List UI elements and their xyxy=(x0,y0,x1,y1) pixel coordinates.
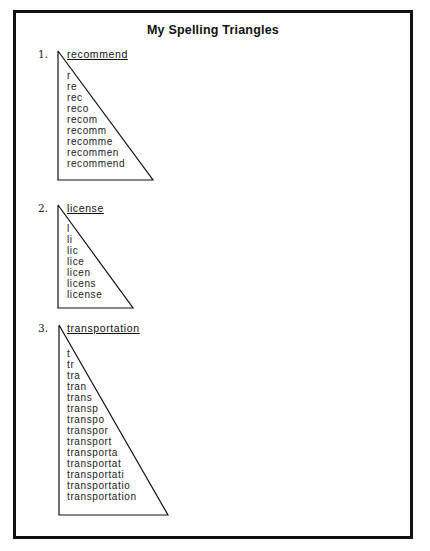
letter-row: transportati xyxy=(67,469,137,480)
letter-row: rec xyxy=(67,92,125,103)
letter-row: r xyxy=(67,70,125,81)
letter-row: licens xyxy=(67,278,102,289)
letter-row: re xyxy=(67,81,125,92)
letter-row: tr xyxy=(67,359,137,370)
spelling-word: transportation xyxy=(67,322,140,334)
letter-row: reco xyxy=(67,103,125,114)
letter-row: tran xyxy=(67,381,137,392)
letter-row: transport xyxy=(67,436,137,447)
letter-row: recom xyxy=(67,114,125,125)
letter-row: recommen xyxy=(67,147,125,158)
letter-row: lic xyxy=(67,245,102,256)
letter-row: recomm xyxy=(67,125,125,136)
letter-row: transportation xyxy=(67,491,137,502)
letter-row: license xyxy=(67,289,102,300)
letter-row: lice xyxy=(67,256,102,267)
spelling-word: recommend xyxy=(67,48,128,60)
letter-row: transporta xyxy=(67,447,137,458)
letter-row: licen xyxy=(67,267,102,278)
letter-rows: l li lic lice licen licens license xyxy=(67,223,102,300)
letter-row: trans xyxy=(67,392,137,403)
letter-row: transpor xyxy=(67,425,137,436)
letter-row: t xyxy=(67,348,137,359)
letter-row: transp xyxy=(67,403,137,414)
letter-row: recomme xyxy=(67,136,125,147)
letter-row: transpo xyxy=(67,414,137,425)
page-title: My Spelling Triangles xyxy=(16,23,410,37)
letter-row: recommend xyxy=(67,158,125,169)
letter-row: transportatio xyxy=(67,480,137,491)
worksheet-page: My Spelling Triangles 1. recommend r re … xyxy=(13,10,413,539)
triangle-outline-icon xyxy=(16,202,216,332)
letter-row: tra xyxy=(67,370,137,381)
letter-rows: t tr tra tran trans transp transpo trans… xyxy=(67,348,137,502)
letter-rows: r re rec reco recom recomm recomme recom… xyxy=(67,70,125,169)
letter-row: transportat xyxy=(67,458,137,469)
spelling-word: license xyxy=(67,202,104,214)
letter-row: li xyxy=(67,234,102,245)
letter-row: l xyxy=(67,223,102,234)
